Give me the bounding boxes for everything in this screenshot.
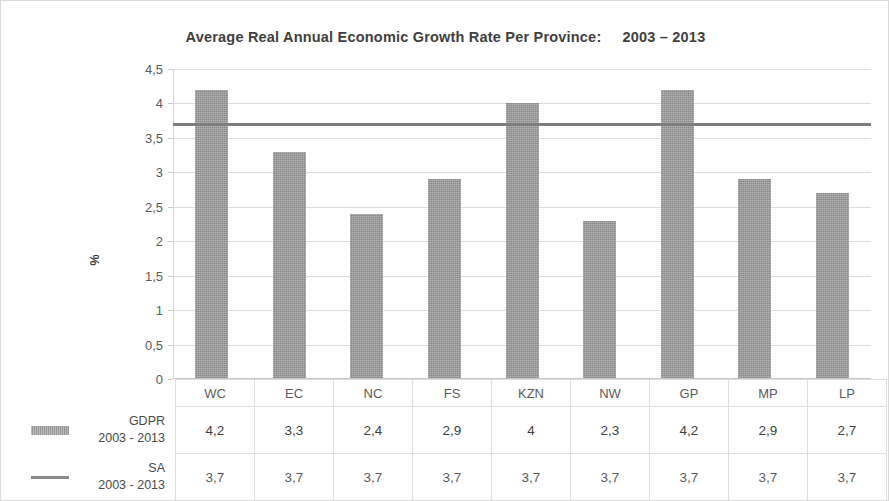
bar xyxy=(816,193,849,379)
legend-gdpr-period: 2003 - 2013 xyxy=(79,430,165,447)
table-header-cell: NW xyxy=(571,380,650,407)
sa-value: 3,7 xyxy=(206,470,225,485)
table-header-cell: NC xyxy=(334,380,413,407)
bar xyxy=(428,179,461,379)
gridline xyxy=(173,69,871,70)
table-cell-gdpr: 4,2 xyxy=(650,407,729,454)
gdpr-value: 2,9 xyxy=(443,423,462,438)
y-tick-mark xyxy=(168,207,173,208)
legend-gdpr-name: GDPR xyxy=(129,414,165,428)
y-tick-label: 1,5 xyxy=(145,268,163,283)
legend-gdpr-text: GDPR 2003 - 2013 xyxy=(79,413,169,447)
table-cell-gdpr: 3,3 xyxy=(255,407,334,454)
category-label: MP xyxy=(758,386,778,401)
category-label: FS xyxy=(444,386,461,401)
gdpr-value: 4,2 xyxy=(206,423,225,438)
sa-value: 3,7 xyxy=(601,470,620,485)
sa-value: 3,7 xyxy=(285,470,304,485)
y-tick-label: 2,5 xyxy=(145,199,163,214)
bar xyxy=(738,179,771,379)
table-row-categories: WCECNCFSKZNNWGPMPLP xyxy=(23,380,887,407)
table-header-cell: LP xyxy=(808,380,887,407)
table-header-cell: MP xyxy=(729,380,808,407)
category-label: KZN xyxy=(518,386,544,401)
sa-value: 3,7 xyxy=(838,470,857,485)
y-tick-mark xyxy=(168,276,173,277)
legend-swatch-line-icon xyxy=(31,476,69,479)
y-tick-label: 4,5 xyxy=(145,62,163,77)
legend-sa: SA 2003 - 2013 xyxy=(23,454,176,501)
category-label: WC xyxy=(204,386,226,401)
table-cell-gdpr: 4,2 xyxy=(176,407,255,454)
y-tick-mark xyxy=(168,241,173,242)
y-tick-mark xyxy=(168,172,173,173)
y-tick-label: 1 xyxy=(156,303,163,318)
sa-value: 3,7 xyxy=(680,470,699,485)
chart-page: Average Real Annual Economic Growth Rate… xyxy=(0,0,889,501)
legend-sa-text: SA 2003 - 2013 xyxy=(79,460,169,494)
bar xyxy=(506,103,539,379)
y-tick-mark xyxy=(168,69,173,70)
category-label: NC xyxy=(364,386,383,401)
table-cell-sa: 3,7 xyxy=(808,454,887,501)
table-cell-sa: 3,7 xyxy=(176,454,255,501)
gdpr-value: 2,3 xyxy=(601,423,620,438)
table-cell-sa: 3,7 xyxy=(729,454,808,501)
table-header-cell: EC xyxy=(255,380,334,407)
table-row-gdpr: GDPR 2003 - 2013 4,23,32,42,942,34,22,92… xyxy=(23,407,887,454)
y-tick-mark xyxy=(168,310,173,311)
y-tick-label: 0,5 xyxy=(145,337,163,352)
table-header-cell: FS xyxy=(413,380,492,407)
category-label: NW xyxy=(599,386,621,401)
table-cell-gdpr: 2,9 xyxy=(729,407,808,454)
chart-title: Average Real Annual Economic Growth Rate… xyxy=(1,29,889,45)
table-cell-sa: 3,7 xyxy=(650,454,729,501)
table-row-sa: SA 2003 - 2013 3,73,73,73,73,73,73,73,73… xyxy=(23,454,887,501)
sa-value: 3,7 xyxy=(759,470,778,485)
sa-value: 3,7 xyxy=(522,470,541,485)
category-label: LP xyxy=(839,386,855,401)
table-header-cell: WC xyxy=(176,380,255,407)
legend-gdpr: GDPR 2003 - 2013 xyxy=(23,407,176,454)
table-cell-gdpr: 2,3 xyxy=(571,407,650,454)
y-tick-mark xyxy=(168,103,173,104)
table-cell-sa: 3,7 xyxy=(413,454,492,501)
plot-area: 4,543,532,521,510,50 xyxy=(173,69,871,379)
legend-cell-empty xyxy=(23,380,176,407)
gdpr-value: 4,2 xyxy=(680,423,699,438)
legend-sa-period: 2003 - 2013 xyxy=(79,477,165,494)
bar xyxy=(273,152,306,379)
table-cell-sa: 3,7 xyxy=(571,454,650,501)
table-cell-sa: 3,7 xyxy=(334,454,413,501)
sa-reference-line xyxy=(173,123,871,126)
data-table: WCECNCFSKZNNWGPMPLP GDPR 2003 - 2013 4,2… xyxy=(23,379,887,501)
table-cell-sa: 3,7 xyxy=(492,454,571,501)
gdpr-value: 2,9 xyxy=(759,423,778,438)
legend-sa-name: SA xyxy=(148,461,165,475)
table-cell-sa: 3,7 xyxy=(255,454,334,501)
table-cell-gdpr: 2,9 xyxy=(413,407,492,454)
gdpr-value: 4 xyxy=(527,423,535,438)
y-tick-mark xyxy=(168,345,173,346)
y-tick-label: 4 xyxy=(156,96,163,111)
table-cell-gdpr: 2,4 xyxy=(334,407,413,454)
sa-value: 3,7 xyxy=(443,470,462,485)
table-header-cell: KZN xyxy=(492,380,571,407)
y-tick-label: 3 xyxy=(156,165,163,180)
gdpr-value: 2,4 xyxy=(364,423,383,438)
y-tick-label: 3,5 xyxy=(145,130,163,145)
gdpr-value: 3,3 xyxy=(285,423,304,438)
category-label: EC xyxy=(285,386,303,401)
sa-value: 3,7 xyxy=(364,470,383,485)
bar xyxy=(195,90,228,379)
bar xyxy=(583,221,616,379)
y-axis-title: % xyxy=(88,254,102,265)
table-header-cell: GP xyxy=(650,380,729,407)
gdpr-value: 2,7 xyxy=(838,423,857,438)
table-cell-gdpr: 2,7 xyxy=(808,407,887,454)
legend-swatch-bar-icon xyxy=(31,426,69,435)
category-label: GP xyxy=(680,386,699,401)
bar xyxy=(661,90,694,379)
y-tick-label: 2 xyxy=(156,234,163,249)
bar xyxy=(350,214,383,379)
